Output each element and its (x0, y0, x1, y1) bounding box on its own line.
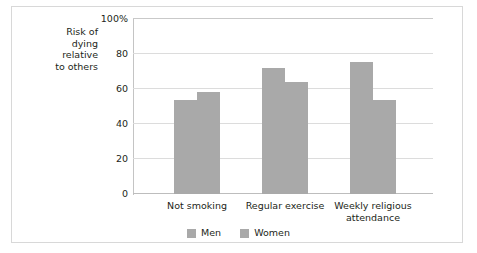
y-tick-label-20: 20 (116, 153, 128, 164)
gridline-100: 100% (133, 18, 433, 19)
y-tick-label-60: 60 (116, 83, 128, 94)
legend-swatch-icon-men (187, 229, 196, 238)
chart-legend: MenWomen (0, 228, 477, 238)
y-tick-label-80: 80 (116, 48, 128, 59)
bar-women-group-3 (373, 100, 396, 194)
gridline-80: 80 (133, 53, 433, 54)
y-axis-title: Risk of dying relative to others (26, 26, 98, 72)
legend-item-men[interactable]: Men (187, 228, 221, 238)
y-tick-label-0: 0 (122, 188, 128, 199)
x-category-label-3: Weekly religious attendance (318, 200, 428, 223)
legend-swatch-icon-women (240, 229, 249, 238)
plot-area: 020406080100% (133, 19, 433, 194)
legend-label-men: Men (201, 228, 221, 238)
bar-women-group-1 (197, 92, 220, 194)
bar-men-group-2 (262, 68, 285, 194)
bar-men-group-3 (350, 62, 373, 194)
y-tick-label-40: 40 (116, 118, 128, 129)
bar-men-group-1 (174, 100, 197, 195)
bar-women-group-2 (285, 82, 308, 194)
y-tick-label-100: 100% (101, 13, 128, 24)
legend-item-women[interactable]: Women (240, 228, 290, 238)
legend-label-women: Women (254, 228, 290, 238)
chart-figure: Risk of dying relative to others 0204060… (0, 0, 477, 253)
